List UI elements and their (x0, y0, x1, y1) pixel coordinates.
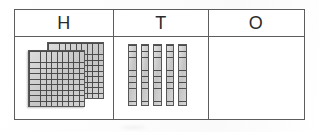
tens-header-label: T (114, 10, 208, 36)
ten-rod-block (141, 44, 150, 106)
ten-rod-block (153, 44, 162, 106)
chart-body-row (15, 37, 304, 119)
ten-rod-block (178, 44, 187, 106)
scanned-page-background: H T O (0, 0, 319, 132)
cell-hundreds[interactable] (15, 37, 114, 119)
ones-blocks-group (209, 37, 303, 119)
cell-ones[interactable] (209, 37, 303, 119)
chart-header-row: H T O (15, 10, 304, 37)
hundreds-blocks-group (15, 37, 113, 119)
ones-header-label: O (209, 10, 303, 36)
ten-rod-block (128, 44, 137, 106)
column-header-hundreds: H (15, 10, 114, 36)
hundred-flat-block (28, 50, 85, 107)
hundreds-header-label: H (15, 10, 113, 36)
scan-smudge (120, 126, 146, 129)
place-value-chart: H T O (14, 9, 305, 120)
column-header-ones: O (209, 10, 303, 36)
cell-tens[interactable] (114, 37, 209, 119)
tens-blocks-group (114, 37, 208, 119)
column-header-tens: T (114, 10, 209, 36)
ten-rod-block (166, 44, 175, 106)
